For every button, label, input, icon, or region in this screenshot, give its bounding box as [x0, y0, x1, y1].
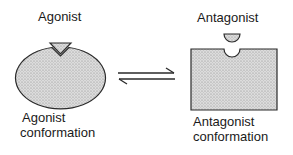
antagonist-label: Antagonist — [197, 10, 258, 25]
antagonist-receptor-rectangle — [191, 49, 277, 110]
antagonist-conformation-label-line2: conformation — [193, 129, 268, 144]
antagonist-conformation-label-line1: Antagonist — [193, 114, 254, 129]
agonist-conformation-label-line1: Agonist — [22, 110, 65, 125]
agonist-conformation-label-line2: conformation — [20, 125, 95, 140]
agonist-receptor-ellipse — [16, 48, 106, 109]
agonist-label: Agonist — [38, 9, 81, 24]
antagonist-ligand-halfcircle — [224, 34, 240, 42]
equilibrium-harpoons-icon — [118, 68, 175, 84]
